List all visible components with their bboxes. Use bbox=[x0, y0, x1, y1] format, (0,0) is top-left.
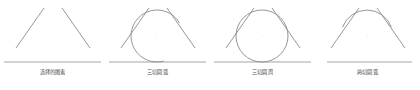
panel-2-caption: 三切圆弧 bbox=[105, 69, 210, 76]
panel-4-drawing bbox=[315, 0, 420, 70]
panel-1-geometry bbox=[4, 8, 101, 62]
panel-3-drawing bbox=[210, 0, 315, 70]
left-tangent-line bbox=[331, 8, 359, 48]
panel-3-caption: 三切圆周 bbox=[210, 69, 315, 76]
tangent-arc-illustration-figure: 选择的图素 三切圆弧 三切圆周 bbox=[0, 0, 420, 90]
panel-two-tangent-arc: 两切圆弧 bbox=[315, 0, 420, 90]
panel-2-drawing bbox=[105, 0, 210, 70]
panel-3-geometry bbox=[214, 8, 311, 62]
circle-center-point bbox=[262, 36, 263, 37]
left-tangent-line bbox=[16, 8, 44, 48]
panel-2-geometry bbox=[109, 8, 206, 62]
left-tangent-line bbox=[121, 8, 149, 48]
panel-three-tangent-arc: 三切圆弧 bbox=[105, 0, 210, 90]
right-tangent-line bbox=[62, 8, 90, 48]
arc-center-point bbox=[157, 36, 158, 37]
panel-1-drawing bbox=[0, 0, 105, 70]
panel-4-geometry bbox=[327, 8, 412, 62]
panel-selected-elements: 选择的图素 bbox=[0, 0, 105, 90]
panel-three-tangent-circle: 三切圆周 bbox=[210, 0, 315, 90]
panel-1-caption: 选择的图素 bbox=[0, 69, 105, 76]
tangent-arc bbox=[131, 10, 180, 62]
arc-center-point bbox=[367, 36, 368, 37]
panel-4-caption: 两切圆弧 bbox=[315, 69, 420, 76]
left-tangent-line bbox=[226, 8, 254, 48]
